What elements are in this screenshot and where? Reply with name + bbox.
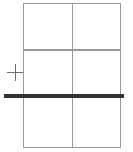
plus-icon-vertical-stroke — [15, 64, 17, 81]
table-grid[interactable] — [23, 3, 121, 148]
annotation-canvas — [0, 0, 133, 152]
split-rule[interactable] — [4, 94, 124, 98]
table-cell[interactable] — [73, 98, 120, 147]
table-cell[interactable] — [24, 98, 72, 147]
table-cell[interactable] — [24, 4, 72, 49]
plus-icon[interactable] — [7, 64, 24, 81]
table-cell[interactable] — [73, 4, 120, 49]
table-cell[interactable] — [24, 51, 72, 97]
table-cell[interactable] — [73, 51, 120, 97]
